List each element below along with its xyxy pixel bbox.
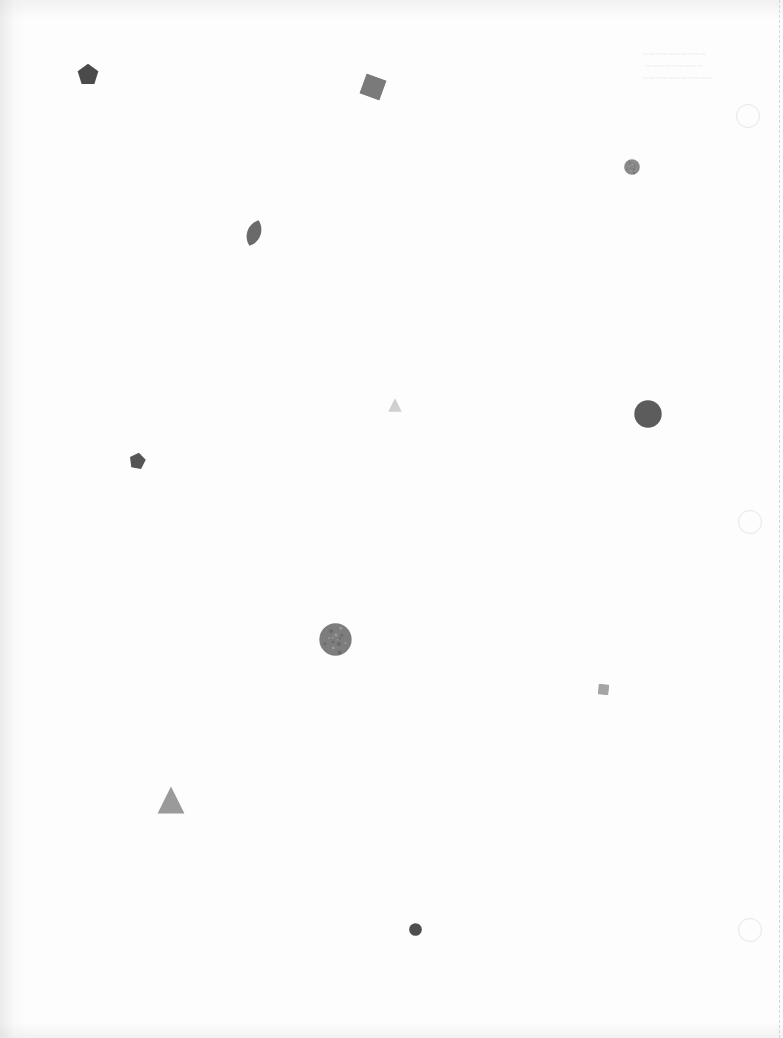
circle-shape-icon [634, 400, 662, 428]
triangle-shape-icon [157, 786, 185, 814]
square-shape-icon [598, 684, 610, 696]
bleed-through-scribble: ~~~~~~~~~~ ~~~~~~~~~ ~~~~~~~~~~~ [642, 48, 713, 84]
binder-hole-icon [738, 918, 762, 942]
binder-hole-icon [738, 510, 762, 534]
square-shape-icon [359, 73, 387, 101]
pentagon-shape-icon [77, 63, 99, 85]
circle-shape-icon [624, 159, 640, 175]
circle-shape-icon [319, 623, 352, 656]
triangle-shape-icon [388, 398, 402, 412]
leaf-shape-icon [240, 216, 268, 249]
binder-hole-icon [736, 104, 760, 128]
scanned-page: ~~~~~~~~~~ ~~~~~~~~~ ~~~~~~~~~~~ [0, 0, 783, 1038]
pentagon-shape-icon [128, 451, 148, 471]
perforation-line [779, 0, 780, 1038]
circle-shape-icon [409, 923, 422, 936]
